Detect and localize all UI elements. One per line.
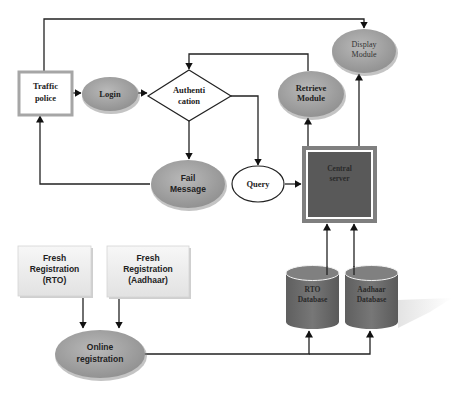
node-retrieve-module: Retrieve Module bbox=[278, 71, 346, 120]
node-fail-message: Fail Message bbox=[151, 160, 227, 211]
fresh-aadhaar-line1: Fresh bbox=[136, 253, 159, 263]
query-label: Query bbox=[246, 179, 270, 189]
node-central-server: Central server bbox=[302, 146, 377, 223]
diagram-canvas: Traffic police Login Authenti cation Fai… bbox=[0, 0, 456, 394]
traffic-police-line2: police bbox=[35, 93, 56, 103]
display-module-line2: Module bbox=[352, 50, 377, 59]
display-module-line1: Display bbox=[352, 40, 377, 49]
node-display-module: Display Module bbox=[332, 29, 398, 76]
edge-online-to-rto-db bbox=[144, 331, 309, 354]
rto-database-line2: Database bbox=[298, 295, 328, 304]
node-fresh-registration-aadhaar: Fresh Registration (Aadhaar) bbox=[107, 246, 191, 299]
database-shadow bbox=[398, 298, 452, 328]
node-login: Login bbox=[82, 77, 140, 114]
edge-auth-to-query bbox=[231, 96, 258, 165]
central-server-line1: Central bbox=[327, 164, 352, 173]
aadhaar-database-line1: Aadhaar bbox=[357, 285, 386, 294]
authentication-line2: cation bbox=[178, 96, 200, 106]
edge-traffic-to-display bbox=[44, 19, 364, 71]
central-server-line2: server bbox=[330, 174, 351, 183]
fresh-rto-line1: Fresh bbox=[43, 253, 66, 263]
node-aadhaar-database: Aadhaar Database bbox=[345, 266, 398, 330]
node-authentication: Authenti cation bbox=[148, 70, 231, 121]
retrieve-module-line2: Module bbox=[297, 93, 325, 103]
edge-fail-to-traffic bbox=[40, 116, 150, 184]
node-rto-database: RTO Database bbox=[286, 266, 339, 330]
node-online-registration: Online registration bbox=[55, 330, 147, 381]
online-registration-line2: registration bbox=[77, 354, 124, 364]
fresh-aadhaar-line3: (Aadhaar) bbox=[128, 275, 168, 285]
fail-message-line2: Message bbox=[170, 184, 206, 194]
node-fresh-registration-rto: Fresh Registration (RTO) bbox=[18, 246, 93, 298]
authentication-line1: Authenti bbox=[173, 85, 206, 95]
node-query: Query bbox=[232, 166, 284, 202]
traffic-police-line1: Traffic bbox=[33, 81, 58, 91]
fresh-aadhaar-line2: Registration bbox=[123, 264, 173, 274]
fresh-rto-line3: (RTO) bbox=[43, 275, 67, 285]
fail-message-line1: Fail bbox=[181, 173, 196, 183]
online-registration-line1: Online bbox=[87, 342, 114, 352]
edge-retrieve-to-auth bbox=[189, 54, 308, 71]
rto-database-line1: RTO bbox=[305, 285, 321, 294]
retrieve-module-line1: Retrieve bbox=[296, 83, 327, 93]
login-label: Login bbox=[99, 89, 121, 99]
aadhaar-database-line2: Database bbox=[357, 295, 387, 304]
node-traffic-police: Traffic police bbox=[19, 72, 72, 115]
fresh-rto-line2: Registration bbox=[30, 264, 80, 274]
edge-online-to-aadhaar-db bbox=[309, 331, 370, 354]
